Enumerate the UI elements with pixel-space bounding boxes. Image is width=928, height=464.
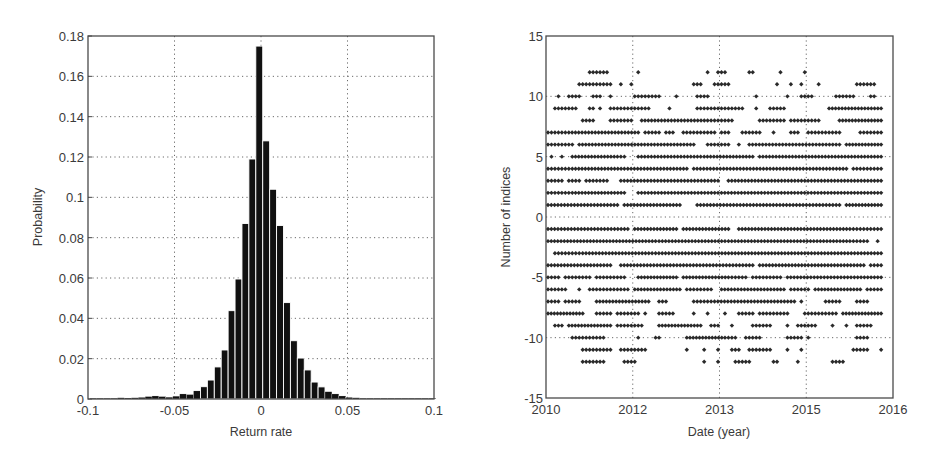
- y-tick-label: -10: [524, 331, 543, 346]
- scatter-point: [879, 142, 883, 146]
- histogram-bar: [200, 387, 207, 399]
- scatter-point: [816, 82, 820, 86]
- scatter-point: [615, 203, 619, 207]
- scatter-point: [816, 118, 820, 122]
- scatter-point: [771, 130, 775, 134]
- scatter-point: [879, 251, 883, 255]
- x-tick-label: 2010: [532, 402, 561, 417]
- x-tick-label: 2016: [879, 402, 908, 417]
- scatter-point: [785, 348, 789, 352]
- scatter-point: [657, 94, 661, 98]
- scatter-point: [705, 311, 709, 315]
- scatter-point: [570, 142, 574, 146]
- scatter-point: [844, 167, 848, 171]
- histogram-bar: [221, 350, 228, 399]
- histogram-bar: [235, 279, 242, 399]
- scatter-point: [799, 348, 803, 352]
- scatter-point: [685, 167, 689, 171]
- scatter-y-axis-label: Number of indices: [499, 167, 513, 268]
- y-tick-label: 10: [529, 89, 543, 104]
- scatter-point: [879, 263, 883, 267]
- scatter-point: [879, 130, 883, 134]
- scatter-point: [757, 130, 761, 134]
- scatter-point: [657, 130, 661, 134]
- scatter-point: [629, 82, 633, 86]
- x-tick-label: 2013: [705, 402, 734, 417]
- histogram-bar: [332, 394, 339, 399]
- scatter-point: [723, 311, 727, 315]
- scatter-point: [730, 118, 734, 122]
- scatter-point: [605, 179, 609, 183]
- histogram-bar: [187, 395, 194, 399]
- scatter-point: [879, 287, 883, 291]
- scatter-point: [726, 82, 730, 86]
- scatter-point: [730, 323, 734, 327]
- scatter-point: [782, 106, 786, 110]
- scatter-point: [549, 154, 553, 158]
- x-tick-label: 0: [257, 403, 264, 418]
- scatter-point: [674, 94, 678, 98]
- scatter-point: [737, 142, 741, 146]
- histogram-bar: [249, 159, 256, 399]
- scatter-point: [626, 227, 630, 231]
- scatter-point: [858, 287, 862, 291]
- scatter-point: [619, 82, 623, 86]
- scatter-point: [587, 275, 591, 279]
- histogram-bar: [304, 370, 311, 399]
- scatter-point: [685, 348, 689, 352]
- histogram-bar: [290, 341, 297, 399]
- scatter-point: [799, 299, 803, 303]
- scatter-point: [810, 94, 814, 98]
- histogram-bar: [318, 387, 325, 399]
- scatter-point: [879, 106, 883, 110]
- histogram-chart: 00.020.040.060.080.10.120.140.160.18 -0.…: [31, 29, 443, 439]
- scatter-point: [778, 70, 782, 74]
- scatter-point: [702, 360, 706, 364]
- scatter-point: [879, 348, 883, 352]
- scatter-point: [872, 82, 876, 86]
- scatter-point: [692, 142, 696, 146]
- x-tick-label: 2015: [792, 402, 821, 417]
- scatter-point: [639, 323, 643, 327]
- y-tick-label: 0.1: [66, 190, 84, 205]
- x-tick-label: -0.1: [77, 403, 99, 418]
- histogram-y-tick-labels: 00.020.040.060.080.10.120.140.160.18: [59, 29, 84, 407]
- scatter-point: [869, 323, 873, 327]
- scatter-point: [775, 82, 779, 86]
- scatter-point: [796, 360, 800, 364]
- x-tick-label: 2012: [618, 402, 647, 417]
- scatter-point: [879, 154, 883, 158]
- scatter-point: [608, 323, 612, 327]
- scatter-point: [574, 106, 578, 110]
- scatter-point: [636, 70, 640, 74]
- scatter-point: [657, 335, 661, 339]
- scatter-point: [726, 227, 730, 231]
- histogram-bar: [283, 303, 290, 399]
- scatter-point: [560, 323, 564, 327]
- scatter-point: [581, 311, 585, 315]
- scatter-point: [879, 227, 883, 231]
- scatter-point: [629, 118, 633, 122]
- scatter-point: [560, 179, 564, 183]
- scatter-point: [577, 179, 581, 183]
- scatter-point: [879, 118, 883, 122]
- scatter-point: [577, 94, 581, 98]
- scatter-point: [785, 311, 789, 315]
- scatter-point: [560, 154, 564, 158]
- scatter-point: [785, 94, 789, 98]
- scatter-point: [865, 335, 869, 339]
- scatter-point: [837, 130, 841, 134]
- histogram-bar: [311, 382, 318, 399]
- scatter-point: [608, 263, 612, 267]
- scatter-point: [796, 130, 800, 134]
- histogram-bars: [90, 46, 436, 399]
- scatter-point: [865, 299, 869, 303]
- y-tick-label: 0: [536, 210, 543, 225]
- histogram-bar: [263, 141, 270, 399]
- scatter-point: [646, 299, 650, 303]
- scatter-point: [591, 106, 595, 110]
- histogram-y-axis-label: Probability: [31, 187, 45, 246]
- scatter-point: [646, 106, 650, 110]
- scatter-point: [716, 360, 720, 364]
- scatter-point: [591, 118, 595, 122]
